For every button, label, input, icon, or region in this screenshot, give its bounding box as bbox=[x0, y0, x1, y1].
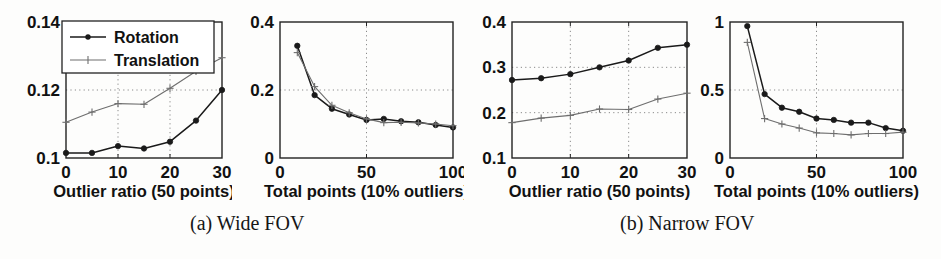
x-axis-label: Outlier ratio (50 points) bbox=[53, 182, 232, 200]
x-tick-label: 30 bbox=[213, 163, 232, 182]
data-point bbox=[568, 71, 573, 76]
plot-panel-1: 0.10.120.140102030Outlier ratio (50 poin… bbox=[0, 0, 232, 200]
data-point bbox=[745, 23, 750, 28]
y-tick-labels: 0.10.120.14 bbox=[27, 13, 61, 168]
data-point bbox=[866, 120, 871, 125]
caption-narrow-fov: (b) Narrow FOV bbox=[620, 212, 754, 235]
plot-panel-2: 00.20.4050100Total points (10% outliers) bbox=[232, 0, 464, 200]
caption-wide-fov: (a) Wide FOV bbox=[190, 212, 304, 235]
legend-marker-circle-icon bbox=[85, 34, 90, 39]
caption-row: (a) Wide FOV (b) Narrow FOV bbox=[0, 206, 941, 252]
x-tick-label: 0 bbox=[725, 163, 734, 182]
chart-panel-1: 0.10.120.140102030Outlier ratio (50 poin… bbox=[0, 0, 232, 200]
series-rotation bbox=[509, 42, 689, 83]
y-tick-label: 0.14 bbox=[27, 13, 61, 32]
y-tick-label: 0.4 bbox=[250, 13, 274, 32]
series-rotation bbox=[745, 23, 906, 133]
data-point bbox=[797, 109, 802, 114]
y-tick-label: 0.3 bbox=[482, 58, 506, 77]
data-point bbox=[626, 58, 631, 63]
x-tick-labels: 050100 bbox=[725, 163, 917, 182]
series-rotation bbox=[63, 87, 224, 155]
figure-container: 0.10.120.140102030Outlier ratio (50 poin… bbox=[0, 0, 941, 259]
y-tick-label: 0 bbox=[265, 149, 274, 168]
series-translation bbox=[294, 49, 457, 129]
data-point bbox=[193, 118, 198, 123]
data-point bbox=[538, 76, 543, 81]
data-point bbox=[762, 91, 767, 96]
data-point bbox=[89, 150, 94, 155]
data-point bbox=[848, 120, 853, 125]
x-tick-labels: 0102030 bbox=[61, 163, 231, 182]
data-point bbox=[597, 65, 602, 70]
grid-lines bbox=[280, 22, 453, 158]
legend-label-rotation: Rotation bbox=[114, 29, 179, 46]
y-tick-label: 0.1 bbox=[482, 149, 506, 168]
y-tick-labels: 0.10.20.30.4 bbox=[482, 13, 506, 168]
x-tick-label: 20 bbox=[161, 163, 180, 182]
y-tick-label: 0.1 bbox=[36, 149, 60, 168]
series-translation bbox=[508, 90, 690, 127]
x-axis-label: Outlier ratio (50 points) bbox=[509, 182, 691, 200]
x-tick-label: 20 bbox=[619, 163, 638, 182]
data-point bbox=[63, 150, 68, 155]
y-tick-labels: 00.20.4 bbox=[250, 13, 274, 168]
legend: RotationTranslation bbox=[62, 21, 214, 73]
x-tick-label: 30 bbox=[678, 163, 697, 182]
x-tick-label: 100 bbox=[889, 163, 917, 182]
data-point bbox=[684, 42, 689, 47]
data-point bbox=[655, 45, 660, 50]
x-tick-label: 50 bbox=[807, 163, 826, 182]
legend-label-translation: Translation bbox=[114, 52, 199, 69]
chart-panel-4: 00.51050100Total points (10% outliers) bbox=[700, 0, 941, 200]
plot-panel-3: 0.10.20.30.40102030Outlier ratio (50 poi… bbox=[464, 0, 700, 200]
data-point bbox=[814, 116, 819, 121]
series-translation bbox=[744, 39, 907, 139]
grid-lines bbox=[512, 22, 687, 158]
data-point bbox=[509, 77, 514, 82]
series-rotation bbox=[295, 43, 456, 130]
data-point bbox=[295, 43, 300, 48]
x-tick-label: 0 bbox=[275, 163, 284, 182]
data-point bbox=[312, 92, 317, 97]
data-point bbox=[115, 143, 120, 148]
x-axis-label: Total points (10% outliers) bbox=[264, 182, 464, 200]
x-tick-label: 10 bbox=[561, 163, 580, 182]
x-tick-label: 100 bbox=[439, 163, 464, 182]
data-point bbox=[831, 117, 836, 122]
y-tick-label: 0.2 bbox=[482, 104, 506, 123]
y-tick-label: 1 bbox=[715, 13, 724, 32]
x-tick-label: 0 bbox=[507, 163, 516, 182]
y-tick-label: 0.5 bbox=[700, 81, 724, 100]
data-point bbox=[167, 139, 172, 144]
chart-panel-3: 0.10.20.30.40102030Outlier ratio (50 poi… bbox=[464, 0, 700, 200]
axis-ticks bbox=[570, 22, 628, 158]
grid-lines bbox=[730, 22, 903, 158]
x-tick-labels: 0102030 bbox=[507, 163, 696, 182]
axes-frame bbox=[512, 22, 687, 158]
x-tick-label: 50 bbox=[357, 163, 376, 182]
x-tick-label: 0 bbox=[61, 163, 70, 182]
data-point bbox=[779, 105, 784, 110]
data-point bbox=[141, 146, 146, 151]
y-tick-label: 0.4 bbox=[482, 13, 506, 32]
chart-panel-2: 00.20.4050100Total points (10% outliers) bbox=[232, 0, 464, 200]
x-axis-label: Total points (10% outliers) bbox=[714, 182, 919, 200]
plot-panel-4: 00.51050100Total points (10% outliers) bbox=[700, 0, 941, 200]
x-tick-labels: 050100 bbox=[275, 163, 464, 182]
y-tick-label: 0 bbox=[715, 149, 724, 168]
y-tick-label: 0.2 bbox=[250, 81, 274, 100]
x-tick-label: 10 bbox=[109, 163, 128, 182]
y-tick-label: 0.12 bbox=[27, 81, 60, 100]
data-point bbox=[219, 87, 224, 92]
y-tick-labels: 00.51 bbox=[700, 13, 724, 168]
